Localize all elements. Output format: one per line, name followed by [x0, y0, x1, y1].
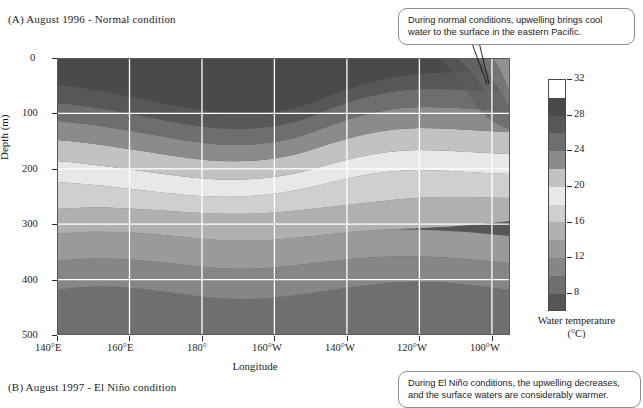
- y-tickmark-0: [52, 58, 57, 59]
- x-tickmark-140e: [57, 336, 58, 341]
- annotation-normal-conditions: During normal conditions, upwelling brin…: [398, 8, 635, 45]
- x-tickmark-160e: [129, 336, 130, 341]
- x-tick-label-140w: 140°W: [325, 342, 355, 353]
- heatmap-canvas: [57, 58, 510, 335]
- panel-b-label: (B) August 1997 - El Niño condition: [8, 381, 176, 393]
- y-tick-400: 400: [22, 274, 38, 285]
- colorbar-caption-line1: Water temperature: [510, 314, 643, 327]
- colorbar-band-10: [549, 276, 565, 294]
- contour-bands: [57, 58, 510, 335]
- colorbar-band-16: [549, 222, 565, 240]
- colorbar: 32 28 24 20 16 12 8: [548, 79, 566, 311]
- colorbar-band-22: [549, 169, 565, 187]
- colorbar-tickmark-8: [567, 293, 572, 294]
- x-tickmark-160w: [274, 336, 275, 341]
- y-tickmark-200: [52, 169, 57, 170]
- y-tick-500: 500: [22, 329, 38, 340]
- y-tickmark-100: [52, 113, 57, 114]
- colorbar-label-32: 32: [574, 72, 585, 83]
- x-tickmark-140w: [347, 336, 348, 341]
- colorbar-label-8: 8: [574, 286, 579, 297]
- y-tickmark-300: [52, 224, 57, 225]
- y-tick-0: 0: [30, 52, 35, 63]
- x-tick-label-100w: 100°W: [470, 342, 500, 353]
- colorbar-band-24: [549, 151, 565, 169]
- colorbar-tickmark-20: [567, 186, 572, 187]
- colorbar-band-18: [549, 205, 565, 223]
- x-tick-label-120w: 120°W: [397, 342, 427, 353]
- x-tick-label-140e: 140°E: [35, 342, 61, 353]
- colorbar-tickmark-28: [567, 115, 572, 116]
- contour-field: [57, 58, 510, 335]
- y-tick-200: 200: [22, 163, 38, 174]
- colorbar-caption-line2: (°C): [510, 327, 643, 340]
- x-tickmark-100w: [492, 336, 493, 341]
- colorbar-caption: Water temperature (°C): [510, 314, 643, 340]
- colorbar-band-30: [549, 98, 565, 116]
- colorbar-band-32: [549, 80, 565, 98]
- colorbar-gradient: [548, 79, 566, 311]
- y-tick-300: 300: [22, 218, 38, 229]
- x-tickmark-180: [202, 336, 203, 341]
- colorbar-label-16: 16: [574, 215, 585, 226]
- y-axis-label: Depth (m): [0, 114, 10, 160]
- x-tick-label-180: 180°: [187, 342, 207, 353]
- colorbar-tickmark-32: [567, 79, 572, 80]
- colorbar-band-20: [549, 187, 565, 205]
- x-tickmark-120w: [419, 336, 420, 341]
- y-tick-100: 100: [22, 107, 38, 118]
- x-tick-label-160e: 160°E: [107, 342, 133, 353]
- annotation-elnino-conditions: During El Niño conditions, the upwelling…: [398, 371, 641, 408]
- colorbar-tickmark-12: [567, 257, 572, 258]
- colorbar-tickmark-16: [567, 222, 572, 223]
- y-tickmark-400: [52, 280, 57, 281]
- colorbar-label-20: 20: [574, 179, 585, 190]
- panel-a-label: (A) August 1996 - Normal condition: [8, 13, 176, 25]
- colorbar-label-24: 24: [574, 143, 585, 154]
- colorbar-band-8: [549, 294, 565, 311]
- colorbar-band-28: [549, 116, 565, 134]
- temperature-section-plot: [57, 58, 510, 335]
- colorbar-band-12: [549, 258, 565, 276]
- colorbar-band-14: [549, 240, 565, 258]
- x-tick-label-160w: 160°W: [252, 342, 282, 353]
- colorbar-label-28: 28: [574, 108, 585, 119]
- colorbar-tickmark-24: [567, 150, 572, 151]
- colorbar-band-26: [549, 133, 565, 151]
- colorbar-label-12: 12: [574, 250, 585, 261]
